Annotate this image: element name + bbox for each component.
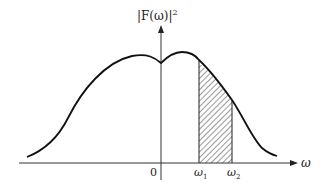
spectrum-diagram: |F(ω)|2 ω 0 ω1 ω2	[0, 0, 327, 189]
origin-label: 0	[150, 166, 157, 179]
x-axis-arrow-icon	[290, 160, 298, 166]
x-axis-label: ω	[301, 156, 311, 170]
y-axis	[158, 25, 164, 180]
x-axis	[19, 160, 298, 166]
omega1-label: ω1	[194, 166, 207, 181]
y-axis-label: |F(ω)|2	[137, 8, 178, 23]
omega2-label: ω2	[227, 166, 240, 181]
y-axis-arrow-icon	[158, 25, 164, 33]
spectrum-curve	[27, 52, 277, 157]
